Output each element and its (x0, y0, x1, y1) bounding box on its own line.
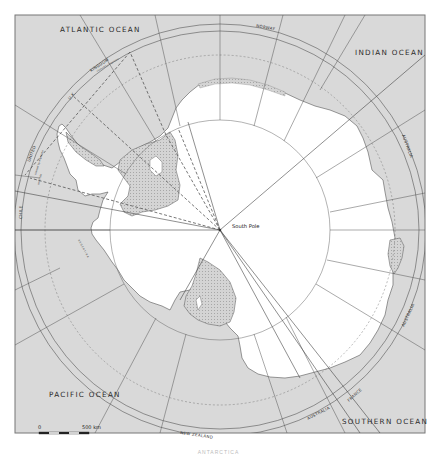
scale-end-label: 500 km (82, 424, 101, 430)
antarctica-map: ATLANTIC OCEAN INDIAN OCEAN PACIFIC OCEA… (0, 0, 437, 465)
southern-ocean-label: SOUTHERN OCEAN (342, 417, 428, 426)
south-pole-label: South Pole (232, 223, 259, 229)
pacific-ocean-label: PACIFIC OCEAN (49, 390, 121, 399)
map-caption: ANTARCTICA (0, 449, 437, 455)
indian-ocean-label: INDIAN OCEAN (355, 48, 424, 57)
scale-start-label: 0 (38, 424, 41, 430)
atlantic-ocean-label: ATLANTIC OCEAN (60, 25, 141, 34)
chile-claim-label: CHILE (18, 205, 23, 219)
south-pole-marker (219, 229, 222, 232)
